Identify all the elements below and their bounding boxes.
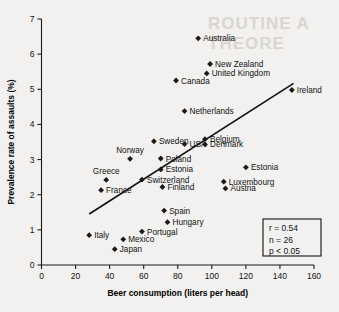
point-label: Denmark <box>210 140 244 149</box>
point-marker <box>103 177 109 183</box>
stats-r: r = 0.54 <box>269 223 298 233</box>
point-label: Poland <box>166 155 192 164</box>
point-marker <box>127 156 133 162</box>
statistics-box: r = 0.54n = 26p < 0.05 <box>263 219 321 256</box>
data-point-greece: Greece <box>93 167 120 182</box>
point-marker <box>221 179 227 185</box>
data-point-canada: Canada <box>173 77 210 86</box>
data-point-austria: Austria <box>223 184 257 193</box>
x-tick-label: 80 <box>173 271 183 281</box>
point-marker <box>207 61 213 67</box>
data-point-france: France <box>98 186 132 195</box>
point-marker <box>139 229 145 235</box>
point-label: Australia <box>203 34 235 43</box>
x-axis-title: Beer consumption (liters per head) <box>107 288 248 298</box>
y-tick-label: 3 <box>30 155 35 165</box>
point-marker <box>98 187 104 193</box>
point-marker <box>160 184 166 190</box>
x-tick-label: 40 <box>105 271 115 281</box>
data-point-mexico: Mexico <box>120 235 154 244</box>
point-marker <box>165 219 171 225</box>
point-marker <box>112 246 118 252</box>
point-marker <box>204 71 210 77</box>
y-tick-label: 6 <box>30 49 35 59</box>
scatter-plot-figure: ROUTINE A THEORE 02040608010012014016001… <box>0 0 339 312</box>
point-label: Italy <box>94 231 110 240</box>
data-point-poland: Poland <box>158 155 192 164</box>
point-marker <box>86 232 92 238</box>
y-tick-label: 7 <box>30 14 35 24</box>
point-label: Ireland <box>297 86 322 95</box>
y-tick-label: 2 <box>30 190 35 200</box>
point-label: Netherlands <box>190 107 234 116</box>
chart-canvas: 02040608010012014016001234567 AustraliaN… <box>0 0 339 312</box>
point-marker <box>120 236 126 242</box>
x-tick-label: 160 <box>307 271 321 281</box>
x-tick-label: 100 <box>205 271 219 281</box>
point-label: Estonia <box>166 165 194 174</box>
point-marker <box>151 138 157 144</box>
point-label: France <box>106 186 132 195</box>
y-axis-title: Prevalence rate of assaults (%) <box>6 79 16 204</box>
point-marker <box>158 156 164 162</box>
data-point-italy: Italy <box>86 231 110 240</box>
data-point-denmark: Denmark <box>202 140 244 149</box>
y-tick-label: 1 <box>30 225 35 235</box>
stats-p: p < 0.05 <box>269 246 300 256</box>
data-point-netherlands: Netherlands <box>182 107 234 116</box>
point-label: Hungary <box>173 218 205 227</box>
data-point-new-zealand: New Zealand <box>207 60 264 69</box>
x-tick-label: 20 <box>71 271 81 281</box>
x-tick-label: 140 <box>273 271 287 281</box>
point-marker <box>173 78 179 84</box>
y-tick-label: 4 <box>30 119 35 129</box>
data-point-australia: Australia <box>195 34 235 43</box>
data-point-norway: Norway <box>116 146 145 161</box>
data-point-united-kingdom: United Kingdom <box>204 69 270 78</box>
data-point-estonia: Estonia <box>243 163 279 172</box>
point-marker <box>195 35 201 41</box>
point-label: Greece <box>93 167 120 176</box>
y-tick-label: 5 <box>30 84 35 94</box>
point-label: United Kingdom <box>212 69 270 78</box>
point-marker <box>182 108 188 114</box>
data-point-japan: Japan <box>112 245 143 254</box>
point-label: Spain <box>169 207 190 216</box>
stats-n: n = 26 <box>269 235 293 245</box>
data-point-ireland: Ireland <box>289 86 322 95</box>
point-label: Finland <box>167 183 194 192</box>
x-tick-label: 120 <box>239 271 253 281</box>
data-point-hungary: Hungary <box>165 218 205 227</box>
point-label: Japan <box>120 245 143 254</box>
y-tick-label: 0 <box>30 260 35 270</box>
x-tick-label: 0 <box>39 271 44 281</box>
point-label: New Zealand <box>215 60 264 69</box>
data-point-spain: Spain <box>161 207 190 216</box>
point-marker <box>223 185 229 191</box>
point-marker <box>289 87 295 93</box>
point-label: Canada <box>181 77 210 86</box>
point-marker <box>161 208 167 214</box>
point-label: Mexico <box>128 235 154 244</box>
point-label: Estonia <box>251 163 279 172</box>
point-marker <box>243 164 249 170</box>
point-label: Austria <box>230 184 256 193</box>
x-tick-label: 60 <box>139 271 149 281</box>
point-label: Norway <box>116 146 145 155</box>
